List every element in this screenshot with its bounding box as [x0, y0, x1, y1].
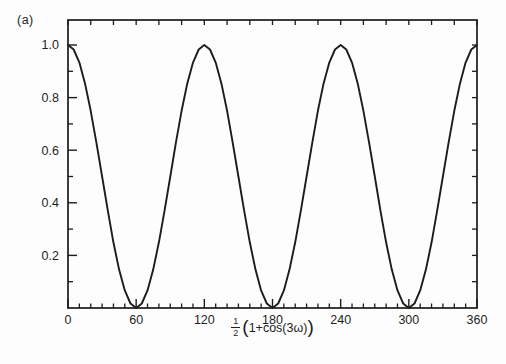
y-tick-label: 1.0 [42, 38, 59, 52]
data-curve [68, 45, 477, 308]
axis-label-expression: 1+cos(3ω) [249, 321, 308, 335]
y-tick-label: 0.4 [42, 196, 59, 210]
figure-panel-a: (a) 0601201802403003600.20.40.60.81.0 12… [0, 0, 506, 364]
fraction-numerator: 1 [231, 317, 240, 327]
y-tick-label: 0.8 [42, 91, 59, 105]
plot-area: 0601201802403003600.20.40.60.81.0 [0, 0, 506, 364]
open-paren: ( [242, 317, 248, 336]
axes-frame [68, 20, 477, 308]
y-tick-label: 0.6 [42, 144, 59, 158]
fraction-one-half: 12 [231, 317, 240, 338]
close-paren: ) [307, 317, 313, 336]
fraction-denominator: 2 [231, 327, 240, 338]
x-axis-label: 12(1+cos(3ω)) [68, 317, 477, 338]
y-tick-label: 0.2 [42, 249, 59, 263]
